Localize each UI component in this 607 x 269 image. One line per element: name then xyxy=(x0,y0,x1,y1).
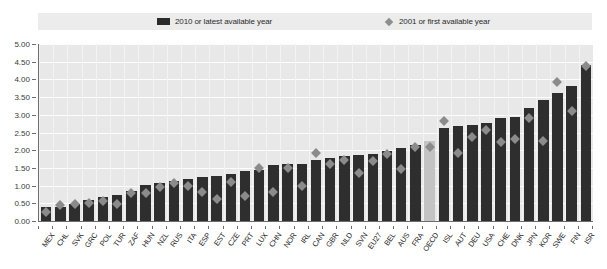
x-axis-tick-mark xyxy=(152,226,153,229)
x-axis-tick-label: CZE xyxy=(226,231,242,248)
x-axis-tick-mark xyxy=(535,226,536,229)
vertical-gridline xyxy=(39,44,40,221)
bar-svn xyxy=(353,155,364,221)
vertical-gridline xyxy=(394,44,395,221)
x-axis-tick-mark xyxy=(208,226,209,229)
vertical-gridline xyxy=(252,44,253,221)
legend-item-2010: 2010 or latest available year xyxy=(157,17,272,26)
vertical-gridline xyxy=(67,44,68,221)
legend-label-2001: 2001 or first available year xyxy=(399,17,490,26)
x-axis-tick-mark xyxy=(436,226,437,229)
vertical-gridline xyxy=(323,44,324,221)
x-axis-tick-label: HUN xyxy=(140,231,156,249)
x-axis-tick-label: AUT xyxy=(453,231,469,248)
x-axis-tick-mark xyxy=(422,226,423,229)
x-axis-tick-mark xyxy=(493,226,494,229)
bar-dnk xyxy=(510,117,521,221)
horizontal-gridline xyxy=(39,79,593,80)
x-axis-tick-label: DNK xyxy=(509,231,525,249)
x-axis-tick-mark xyxy=(564,226,565,229)
x-axis-tick-label: POL xyxy=(98,231,114,248)
x-axis-tick-mark xyxy=(549,226,550,229)
vertical-gridline xyxy=(181,44,182,221)
x-axis-tick-mark xyxy=(450,226,451,229)
y-axis-tick-label: 1.50 xyxy=(14,163,30,172)
x-axis-tick-mark xyxy=(464,226,465,229)
y-axis-tick-mark xyxy=(32,168,36,169)
y-axis-tick-label: 4.50 xyxy=(14,57,30,66)
x-axis-tick-mark xyxy=(322,226,323,229)
chart-figure: 2010 or latest available year 2001 or fi… xyxy=(0,0,607,269)
x-axis-tick-mark xyxy=(95,226,96,229)
x-axis-tick-label: SWE xyxy=(551,231,568,250)
x-axis-tick-label: GBR xyxy=(324,231,340,249)
x-axis-tick-label: EST xyxy=(212,231,227,248)
x-axis-tick-mark xyxy=(365,226,366,229)
x-axis-tick-mark xyxy=(407,226,408,229)
x-axis-tick-label: FIN xyxy=(568,231,582,246)
vertical-gridline xyxy=(465,44,466,221)
bar-oecd xyxy=(424,141,435,221)
x-axis-tick-mark xyxy=(137,226,138,229)
x-axis-tick-label: BEL xyxy=(382,231,397,247)
x-axis-tick-label: NLD xyxy=(339,231,355,248)
horizontal-gridline xyxy=(39,62,593,63)
bar-swe xyxy=(552,93,563,221)
x-axis-tick-label: PRT xyxy=(240,231,256,248)
vertical-gridline xyxy=(53,44,54,221)
x-axis-tick-label: DEU xyxy=(467,231,483,249)
x-axis-tick-mark xyxy=(478,226,479,229)
vertical-gridline xyxy=(479,44,480,221)
x-axis-tick-mark xyxy=(279,226,280,229)
bar-isr xyxy=(581,65,592,221)
x-axis-tick-label: NZL xyxy=(155,231,170,247)
x-axis-tick-mark xyxy=(294,226,295,229)
x-axis-tick-label: SVK xyxy=(69,231,85,248)
y-axis-tick-mark xyxy=(32,186,36,187)
x-axis-tick-mark xyxy=(52,226,53,229)
y-axis-tick-label: 3.50 xyxy=(14,93,30,102)
x-axis-tick-label: KOR xyxy=(537,231,553,249)
y-axis-tick-label: 0.50 xyxy=(14,199,30,208)
vertical-gridline xyxy=(138,44,139,221)
x-axis-tick-mark xyxy=(578,226,579,229)
x-axis-tick-mark xyxy=(507,226,508,229)
plot-wrapper: 0.000.501.001.502.002.503.003.504.004.50… xyxy=(0,40,607,269)
x-axis-tick-label: LUX xyxy=(254,231,269,248)
horizontal-gridline xyxy=(39,44,593,45)
x-axis-tick-label: TUR xyxy=(112,231,128,248)
bar-aut xyxy=(453,126,464,221)
x-axis-tick-mark xyxy=(308,226,309,229)
x-axis-tick-label: CHN xyxy=(267,231,283,249)
x-axis-tick-label: CHE xyxy=(495,231,511,249)
legend-bar-swatch-icon xyxy=(157,18,170,25)
x-axis-tick-label: ISR xyxy=(582,231,596,246)
legend-diamond-swatch-icon xyxy=(385,17,393,25)
y-axis-tick-mark xyxy=(32,203,36,204)
bar-kor xyxy=(538,100,549,221)
y-axis-tick-label: 0.00 xyxy=(14,217,30,226)
x-axis-tick-label: GRC xyxy=(82,231,99,249)
vertical-gridline xyxy=(195,44,196,221)
x-axis-tick-label: CAN xyxy=(310,231,326,249)
marker-isl xyxy=(439,116,449,126)
y-axis-tick-mark xyxy=(32,79,36,80)
y-axis-tick-label: 1.00 xyxy=(14,181,30,190)
y-axis-tick-mark xyxy=(32,133,36,134)
x-axis-tick-mark xyxy=(237,226,238,229)
vertical-gridline xyxy=(209,44,210,221)
bar-irl xyxy=(297,164,308,221)
x-axis-tick-mark xyxy=(194,226,195,229)
bar-usa xyxy=(481,123,492,221)
x-axis-tick-mark xyxy=(166,226,167,229)
vertical-gridline xyxy=(536,44,537,221)
x-axis-tick-mark xyxy=(379,226,380,229)
x-axis-tick-label: AUS xyxy=(396,231,412,248)
y-axis-tick-label: 3.00 xyxy=(14,110,30,119)
y-axis-tick-mark xyxy=(32,62,36,63)
bar-esp xyxy=(197,177,208,221)
x-axis-tick-mark xyxy=(592,226,593,229)
bar-fra xyxy=(410,145,421,221)
y-axis-tick-mark xyxy=(32,44,36,45)
x-axis-tick-mark xyxy=(521,226,522,229)
